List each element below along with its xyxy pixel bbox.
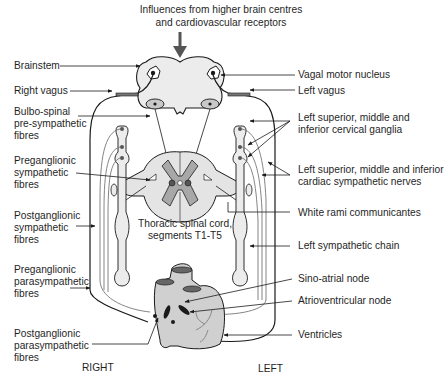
label-bulbo-spinal-fibres: Bulbo-spinal pre-sympathetic fibres	[14, 106, 86, 142]
label-cervical-ganglia: Left superior, middle and inferior cervi…	[298, 112, 410, 136]
input-arrow-icon	[173, 32, 187, 58]
label-ventricles: Ventricles	[298, 329, 342, 341]
diagram-title-line2: and cardiovascular receptors	[100, 17, 342, 29]
label-white-rami: White rami communicantes	[298, 207, 421, 219]
label-cardiac-sympathetic-nerves: Left superior, middle and inferior cardi…	[298, 164, 444, 188]
spinal-cord-shape	[121, 152, 240, 222]
label-thoracic-spinal-cord: Thoracic spinal cord, segments T1-T5	[130, 218, 240, 242]
label-atrioventricular-node: Atrioventricular node	[298, 295, 391, 307]
left-sympathetic-chain	[216, 126, 252, 286]
label-preganglionic-sympathetic: Preganglionic sympathetic fibres	[14, 155, 76, 191]
label-right-vagus: Right vagus	[14, 85, 68, 97]
label-postganglionic-sympathetic: Postganglionic sympathetic fibres	[14, 210, 80, 246]
label-sino-atrial-node: Sino-atrial node	[298, 273, 369, 285]
brainstem-shape	[137, 57, 224, 114]
label-brainstem: Brainstem	[14, 60, 60, 72]
heart-shape	[153, 264, 225, 349]
label-postganglionic-parasympathetic: Postganglionic parasympathetic fibres	[14, 328, 89, 364]
label-left-vagus: Left vagus	[298, 85, 345, 97]
label-left-sympathetic-chain: Left sympathetic chain	[298, 240, 399, 252]
right-sympathetic-chain	[111, 126, 146, 286]
label-left-side: LEFT	[258, 363, 283, 375]
label-vagal-motor-nucleus: Vagal motor nucleus	[298, 69, 390, 81]
label-preganglionic-parasympathetic: Preganglionic parasympathetic fibres	[14, 264, 89, 300]
label-right-side: RIGHT	[82, 362, 114, 374]
diagram-title-line1: Influences from higher brain centres	[100, 4, 342, 16]
